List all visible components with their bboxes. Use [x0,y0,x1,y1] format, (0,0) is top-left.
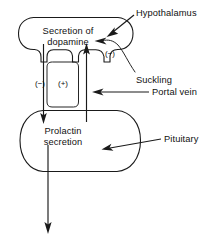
suckling-annotation-label: Suckling [136,75,172,86]
inhibition-sign-suckling: (−) [105,50,115,58]
pituitary-node-label: Prolactin secretion [28,126,98,147]
pituitary-node-label-line1: Prolactin [28,126,98,137]
hypothalamus-node-label: Secretion of dopamine [30,26,106,47]
pituitary-node-label-line2: secretion [28,137,98,148]
pituitary-pointer-line [110,139,161,148]
hypothalamus-node-label-line1: Secretion of [30,26,106,37]
hypothalamus-node-label-line2: dopamine [30,37,106,48]
inhibition-sign-left: (−) [35,80,45,88]
hypothalamus-annotation-label: Hypothalamus [136,8,197,19]
stimulation-sign-middle: (+) [58,80,68,88]
diagram-canvas: Secretion of dopamine Prolactin secretio… [0,0,222,243]
portal-vein-annotation-label: Portal vein [152,87,197,98]
pituitary-annotation-label: Pituitary [164,134,198,145]
